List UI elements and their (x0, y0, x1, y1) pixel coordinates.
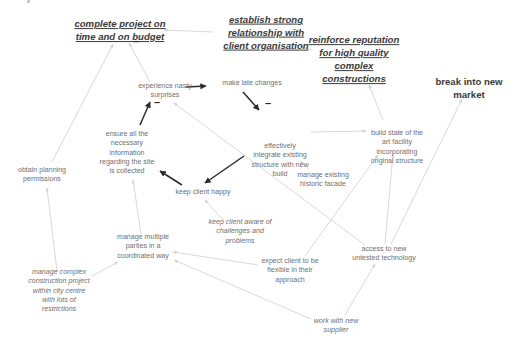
node-obtain-permissions: obtain planningpermissions (18, 166, 66, 185)
node-historic-facade: manage existinghistoric facade (297, 171, 349, 190)
node-label-line: access to new (352, 245, 416, 254)
edge-nasty-surprises-to-complete-project (129, 43, 150, 82)
node-label-line: time and on budget (74, 31, 165, 44)
node-access-technology: access to newuntested technology (352, 245, 416, 264)
node-label-line: integrate existing (251, 152, 308, 161)
node-nasty-surprises: experience nastysurprises (138, 82, 192, 101)
node-label-line: manage complex (28, 268, 90, 277)
node-reinforce-reputation: reinforce reputationfor high qualitycomp… (309, 34, 400, 86)
node-label-line: surprises (138, 91, 192, 100)
node-label-line: parties in a (117, 242, 169, 251)
edge-integrate-structure-to-keep-client-happy (205, 156, 244, 183)
node-label-line: complete project on (74, 18, 165, 31)
node-label-line: challenges and (208, 227, 271, 236)
node-label-line: regarding the site (100, 158, 155, 167)
negative-sign-icon: – (154, 97, 160, 108)
edge-manage-parties-to-ensure-info (133, 180, 141, 234)
node-keep-client-happy: keep client happy (175, 188, 230, 197)
node-break-market: break into newmarket (435, 76, 502, 101)
node-label-line: constructions (309, 73, 400, 86)
node-label-line: coordinated way (117, 252, 169, 261)
node-client-relationship: establish strongrelationship withclient … (223, 14, 308, 53)
edge-client-relationship-to-complete-project (164, 30, 213, 32)
node-label-line: expect client to be (261, 257, 318, 266)
edge-integrate-structure-to-build-facility (311, 131, 366, 132)
node-label-line: with lots of (28, 296, 90, 305)
node-label-line: construction project (28, 277, 90, 286)
node-new-supplier: work with newsupplier (314, 317, 359, 336)
node-label-line: experience nasty (138, 82, 192, 91)
edge-new-supplier-to-access-technology (345, 264, 375, 315)
negative-sign-icon: – (265, 98, 271, 109)
node-label-line: obtain planning (18, 166, 66, 175)
negative-sign-icon: – (133, 36, 139, 47)
node-label-line: problems (208, 237, 271, 246)
node-label-line: effectively (251, 142, 308, 151)
node-label-line: complex (309, 60, 400, 73)
edge-keep-client-happy-to-ensure-info (160, 171, 182, 185)
edge-ensure-info-to-nasty-surprises (140, 102, 150, 125)
node-label-line: permissions (18, 175, 66, 184)
node-label-line: untested technology (352, 254, 416, 263)
node-manage-parties: manage multipleparties in acoordinated w… (117, 233, 169, 261)
node-label-line: restrictions (28, 305, 90, 314)
node-label-line: original structure (371, 157, 423, 166)
node-build-facility: build state of theart facilityincorporat… (371, 129, 423, 166)
node-expect-flexible: expect client to beflexible in theirappr… (261, 257, 318, 285)
node-label-line: structure with new (251, 161, 308, 170)
cognitive-map-canvas: complete project ontime and on budgetest… (0, 0, 514, 349)
edge-late-changes-to-integrate-structure (243, 92, 259, 110)
node-label-line: manage existing (297, 171, 349, 180)
node-label-line: flexible in their (261, 266, 318, 275)
node-label-line: within city centre (28, 286, 90, 295)
edge-expect-flexible-to-manage-parties (173, 252, 258, 265)
node-label-line: establish strong (223, 14, 308, 27)
node-label-line: work with new (314, 317, 359, 326)
edge-access-technology-to-break-market (391, 99, 462, 244)
node-label-line: approach (261, 276, 318, 285)
node-label-line: incorporating (371, 148, 423, 157)
node-label-line: supplier (314, 326, 359, 335)
node-complete-project: complete project ontime and on budget (74, 18, 165, 44)
edge-access-technology-to-build-facility (385, 154, 393, 244)
node-label-line: keep client happy (175, 188, 230, 197)
node-label-line: make late changes (222, 79, 282, 88)
node-label-line: reinforce reputation (309, 34, 400, 47)
node-label-line: build state of the (371, 129, 423, 138)
node-label-line: ensure all the (100, 130, 155, 139)
node-keep-client-aware: keep client aware ofchallenges andproble… (208, 218, 271, 246)
edge-complex-project-to-manage-parties (92, 262, 118, 276)
node-label-line: market (435, 89, 502, 102)
node-label-line: necessary (100, 139, 155, 148)
node-late-changes: make late changes (222, 79, 282, 88)
node-label-line: for high quality (309, 47, 400, 60)
node-label-line: manage multiple (117, 233, 169, 242)
node-complex-project: manage complexconstruction projectwithin… (28, 268, 90, 315)
edge-complex-project-to-obtain-permissions (47, 188, 57, 271)
node-label-line: historic facade (297, 180, 349, 189)
node-label-line: client organisation (223, 39, 308, 52)
node-label-line: is collected (100, 167, 155, 176)
node-label-line: break into new (435, 76, 502, 89)
node-ensure-info: ensure all thenecessaryinformationregard… (100, 130, 155, 177)
node-label-line: relationship with (223, 27, 308, 40)
node-label-line: art facility (371, 139, 423, 148)
node-label-line: keep client aware of (208, 218, 271, 227)
node-label-line: information (100, 148, 155, 157)
edge-build-facility-to-reinforce-reputation (369, 85, 383, 120)
